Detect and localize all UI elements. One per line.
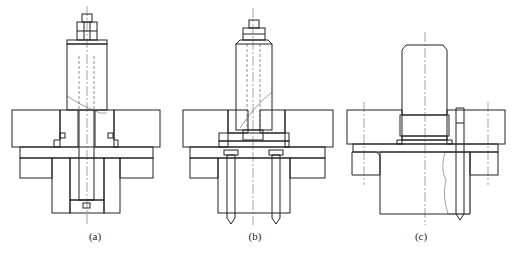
lower-plate bbox=[353, 144, 498, 152]
lower-plate bbox=[190, 147, 325, 158]
punch-body bbox=[236, 44, 272, 130]
key-left bbox=[60, 133, 65, 138]
upper-plate-right bbox=[114, 110, 160, 147]
holder-right bbox=[95, 110, 118, 147]
panel-label-a: (a) bbox=[89, 230, 101, 242]
housing-left bbox=[52, 158, 70, 213]
panel-b bbox=[183, 8, 333, 225]
upper-plate-left bbox=[347, 110, 402, 144]
bolt-rod bbox=[79, 110, 94, 200]
key-right bbox=[108, 133, 113, 138]
screw-head-left bbox=[224, 150, 238, 155]
base-left bbox=[20, 158, 52, 178]
technical-drawing bbox=[0, 0, 515, 257]
dowel-pin bbox=[456, 108, 464, 220]
screw-left bbox=[227, 155, 235, 224]
holder-left bbox=[54, 110, 78, 147]
lower-plate bbox=[20, 147, 153, 158]
housing bbox=[218, 158, 290, 213]
panel-c bbox=[347, 32, 505, 225]
screw-right bbox=[272, 155, 280, 224]
screw-head-right bbox=[269, 150, 283, 155]
upper-plate-left bbox=[12, 110, 60, 147]
housing-right bbox=[104, 158, 120, 213]
punch-body bbox=[402, 45, 447, 115]
base-right bbox=[120, 158, 153, 178]
panel-label-c: (c) bbox=[415, 230, 427, 242]
upper-plate-right bbox=[285, 110, 333, 147]
panel-a bbox=[12, 6, 160, 225]
panel-label-b: (b) bbox=[249, 230, 262, 242]
